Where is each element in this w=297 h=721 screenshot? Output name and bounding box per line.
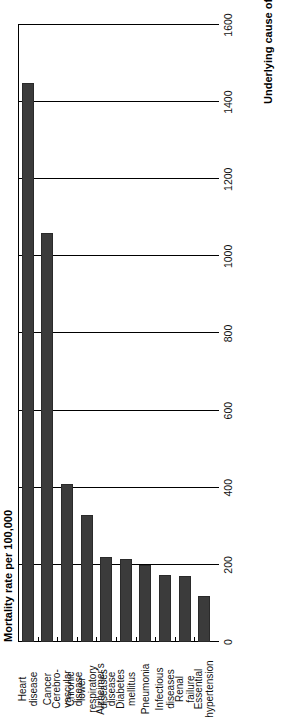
category-label-line: lower [76,646,87,721]
category-tick [77,637,78,642]
category-label: Diabetesmellitus [115,646,137,721]
value-tick-label: 1000 [222,245,234,268]
category-label-line: Chronic [65,646,76,721]
category-label-line: Infectious [154,646,165,721]
category-tick [175,637,176,642]
bar [198,596,210,642]
value-axis-title: Mortality rate per 100,000 [2,510,14,642]
category-label-line: Diabetes [115,646,126,721]
bar [81,515,93,642]
category-label-line: Cerebro- [51,646,62,721]
bar [61,484,73,642]
category-tick [96,637,97,642]
value-tick [214,255,219,256]
category-label-line: mellitus [126,646,137,721]
value-tick-label: 800 [222,325,234,343]
category-label-line: Renal [174,646,185,721]
bar [41,233,53,642]
category-label: Essentialhypertension [193,646,215,721]
bar [120,559,132,642]
category-label-line: disease [28,646,39,721]
category-label-line: Pneumonia [140,646,151,721]
value-tick-label: 400 [222,479,234,497]
plot-area [18,25,214,642]
value-tick-label: 1400 [222,90,234,113]
value-tick [214,410,219,411]
value-tick [214,564,219,565]
gridline [18,24,214,25]
category-tick [57,637,58,642]
value-tick-label: 1200 [222,168,234,191]
category-tick [155,637,156,642]
value-tick [214,178,219,179]
category-tick [116,637,117,642]
value-tick [214,24,219,25]
value-tick [214,641,219,642]
category-tick [194,637,195,642]
value-tick-label: 200 [222,556,234,574]
value-tick [214,333,219,334]
value-tick [214,101,219,102]
value-tick-label: 1600 [222,13,234,36]
bar [22,83,34,642]
category-axis-title: Underlying cause of death [262,0,274,104]
value-tick-label: 600 [222,402,234,420]
category-label: Pneumonia [140,646,151,721]
category-tick [136,637,137,642]
value-tick-label: 0 [222,639,234,645]
bar [100,557,112,642]
category-label-line: Heart [17,646,28,721]
category-label-line: Alzheimer's [95,646,106,721]
value-tick [214,487,219,488]
bar [179,576,191,642]
category-label-line: hypertension [204,646,215,721]
bar [159,575,171,642]
gridline [18,178,214,179]
gridline [18,101,214,102]
category-tick [38,637,39,642]
category-label: Heartdisease [17,646,39,721]
bar [139,565,151,642]
category-label-line: Essential [193,646,204,721]
